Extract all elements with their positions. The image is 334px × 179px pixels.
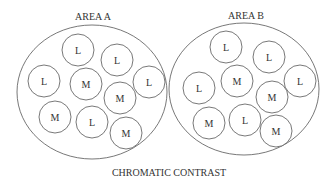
circle-l: L (101, 44, 133, 76)
circle-letter: L (89, 117, 95, 128)
diagram-svg: AREA ALLLMLMMLMAREA BLLLMLMMLMCHROMATIC … (0, 0, 334, 179)
circle-m: M (104, 82, 136, 114)
circle-m: M (221, 65, 253, 97)
circle-l: L (229, 104, 261, 136)
circle-m: M (110, 117, 142, 149)
circle-l: L (133, 66, 165, 98)
circle-l: L (28, 65, 60, 97)
circle-l: L (183, 72, 215, 104)
circle-letter: M (116, 93, 125, 104)
circle-m: M (70, 68, 102, 100)
circle-m: M (193, 107, 225, 139)
circle-l: L (76, 106, 108, 138)
circle-letter: L (223, 42, 229, 53)
chromatic-contrast-diagram: AREA ALLLMLMMLMAREA BLLLMLMMLMCHROMATIC … (0, 0, 334, 179)
circle-letter: L (146, 77, 152, 88)
area-b: AREA BLLLMLMMLM (169, 10, 319, 155)
circle-letter: M (272, 126, 281, 137)
circle-l: L (62, 34, 94, 66)
circle-m: M (260, 115, 292, 147)
area-a: AREA ALLLMLMMLM (17, 11, 167, 159)
circle-m: M (256, 81, 288, 113)
circle-letter: M (82, 79, 91, 90)
circle-l: L (210, 31, 242, 63)
diagram-title: CHROMATIC CONTRAST (112, 167, 226, 178)
circle-letter: M (233, 76, 242, 87)
area-label: AREA B (228, 10, 264, 21)
circle-l: L (253, 41, 285, 73)
area-label: AREA A (75, 11, 112, 22)
circle-letter: M (122, 128, 131, 139)
circle-l: L (284, 65, 316, 97)
circle-letter: L (242, 115, 248, 126)
circle-letter: L (297, 76, 303, 87)
circle-letter: L (114, 55, 120, 66)
circle-m: M (39, 101, 71, 133)
circle-letter: L (41, 76, 47, 87)
circle-letter: M (268, 92, 277, 103)
circle-letter: M (205, 118, 214, 129)
circle-letter: L (75, 45, 81, 56)
circle-letter: L (196, 83, 202, 94)
circle-letter: L (266, 52, 272, 63)
circle-letter: M (51, 112, 60, 123)
